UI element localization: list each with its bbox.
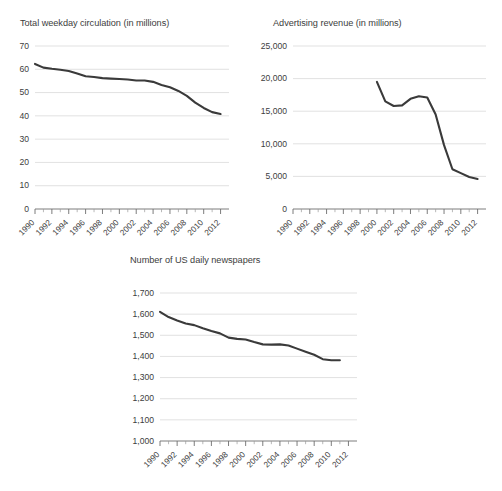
y-axis-tick-label: 25,000 bbox=[261, 41, 288, 51]
x-axis-tick-label: 2008 bbox=[169, 218, 189, 238]
x-axis-tick-label: 2008 bbox=[426, 218, 446, 238]
x-axis-tick-label: 2010 bbox=[186, 218, 206, 238]
x-axis-tick-label: 2000 bbox=[359, 218, 379, 238]
x-axis-tick-label: 1992 bbox=[292, 218, 312, 238]
y-axis-tick-label: 60 bbox=[19, 64, 29, 74]
x-axis-tick-label: 1998 bbox=[342, 218, 362, 238]
y-axis-tick-label: 1,600 bbox=[132, 309, 154, 319]
chart-plot-adrevenue: 25,00020,00015,00010,0005,00001990199219… bbox=[248, 0, 502, 245]
y-axis-tick-label: 1,400 bbox=[132, 351, 154, 361]
y-axis-tick-label: 1,000 bbox=[132, 436, 154, 446]
y-axis-tick-label: 1,200 bbox=[132, 393, 154, 403]
y-axis-tick-label: 20,000 bbox=[261, 73, 288, 83]
x-axis-tick-label: 1996 bbox=[326, 218, 346, 238]
x-axis-tick-label: 2006 bbox=[279, 450, 299, 470]
x-axis-tick-label: 1996 bbox=[68, 218, 88, 238]
x-axis-tick-label: 2012 bbox=[203, 218, 223, 238]
x-axis-tick-label: 1990 bbox=[142, 450, 162, 470]
y-axis-tick-label: 0 bbox=[24, 204, 29, 214]
y-axis-tick-label: 10,000 bbox=[261, 139, 288, 149]
chart-plot-circulation: 7060504030201001990199219941996199820002… bbox=[0, 0, 251, 245]
y-axis-tick-label: 1,300 bbox=[132, 372, 154, 382]
x-axis-tick-label: 2000 bbox=[228, 450, 248, 470]
x-axis-tick-label: 2002 bbox=[376, 218, 396, 238]
y-axis-tick-label: 20 bbox=[19, 157, 29, 167]
y-axis-tick-label: 30 bbox=[19, 134, 29, 144]
x-axis-tick-label: 2006 bbox=[152, 218, 172, 238]
x-axis-tick-label: 1990 bbox=[275, 218, 295, 238]
x-axis-tick-label: 2010 bbox=[443, 218, 463, 238]
x-axis-tick-label: 2012 bbox=[460, 218, 480, 238]
x-axis-tick-label: 2006 bbox=[409, 218, 429, 238]
series-line bbox=[35, 64, 221, 114]
x-axis-tick-label: 1998 bbox=[85, 218, 105, 238]
x-axis-tick-label: 2010 bbox=[313, 450, 333, 470]
x-axis-tick-label: 1992 bbox=[159, 450, 179, 470]
x-axis-tick-label: 1998 bbox=[211, 450, 231, 470]
series-line bbox=[160, 312, 340, 360]
x-axis-tick-label: 1994 bbox=[51, 218, 71, 238]
y-axis-tick-label: 70 bbox=[19, 41, 29, 51]
chart-plot-newspapers: 1,7001,6001,5001,4001,3001,2001,1001,000… bbox=[112, 248, 392, 491]
x-axis-tick-label: 2004 bbox=[393, 218, 413, 238]
x-axis-tick-label: 1996 bbox=[194, 450, 214, 470]
x-axis-tick-label: 1990 bbox=[17, 218, 37, 238]
y-axis-tick-label: 50 bbox=[19, 87, 29, 97]
y-axis-tick-label: 0 bbox=[282, 204, 287, 214]
y-axis-tick-label: 5,000 bbox=[265, 171, 287, 181]
x-axis-tick-label: 2008 bbox=[296, 450, 316, 470]
x-axis-tick-label: 2000 bbox=[102, 218, 122, 238]
x-axis-tick-label: 1994 bbox=[176, 450, 196, 470]
chart-panel-newspapers: Number of US daily newspapers 1,7001,600… bbox=[112, 248, 392, 491]
x-axis-tick-label: 1992 bbox=[34, 218, 54, 238]
x-axis-tick-label: 2004 bbox=[262, 450, 282, 470]
y-axis-tick-label: 10 bbox=[19, 180, 29, 190]
y-axis-tick-label: 15,000 bbox=[261, 106, 288, 116]
y-axis-tick-label: 1,100 bbox=[132, 415, 154, 425]
chart-panel-adrevenue: Advertising revenue (in millions) 25,000… bbox=[248, 0, 502, 245]
x-axis-tick-label: 2002 bbox=[118, 218, 138, 238]
x-axis-tick-label: 2002 bbox=[245, 450, 265, 470]
y-axis-tick-label: 1,500 bbox=[132, 330, 154, 340]
series-line bbox=[377, 82, 478, 179]
x-axis-tick-label: 2004 bbox=[135, 218, 155, 238]
x-axis-tick-label: 1994 bbox=[309, 218, 329, 238]
y-axis-tick-label: 1,700 bbox=[132, 288, 154, 298]
x-axis-tick-label: 2012 bbox=[331, 450, 351, 470]
y-axis-tick-label: 40 bbox=[19, 111, 29, 121]
chart-panel-circulation: Total weekday circulation (in millions) … bbox=[0, 0, 251, 245]
